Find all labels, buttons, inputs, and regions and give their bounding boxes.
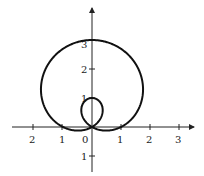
- x-tick-label: 2: [29, 134, 35, 145]
- x-tick-label: 0: [82, 134, 88, 145]
- x-tick-label: 3: [175, 134, 181, 145]
- x-tick-label: 1: [59, 134, 65, 145]
- y-tick-label: 1: [81, 151, 87, 162]
- polar-plot: 2 1 0 1 2 3 3 2 1 1: [0, 0, 204, 176]
- x-tick-label: 1: [117, 134, 123, 145]
- x-tick-label: 2: [146, 134, 152, 145]
- y-tick-label: 2: [81, 64, 87, 75]
